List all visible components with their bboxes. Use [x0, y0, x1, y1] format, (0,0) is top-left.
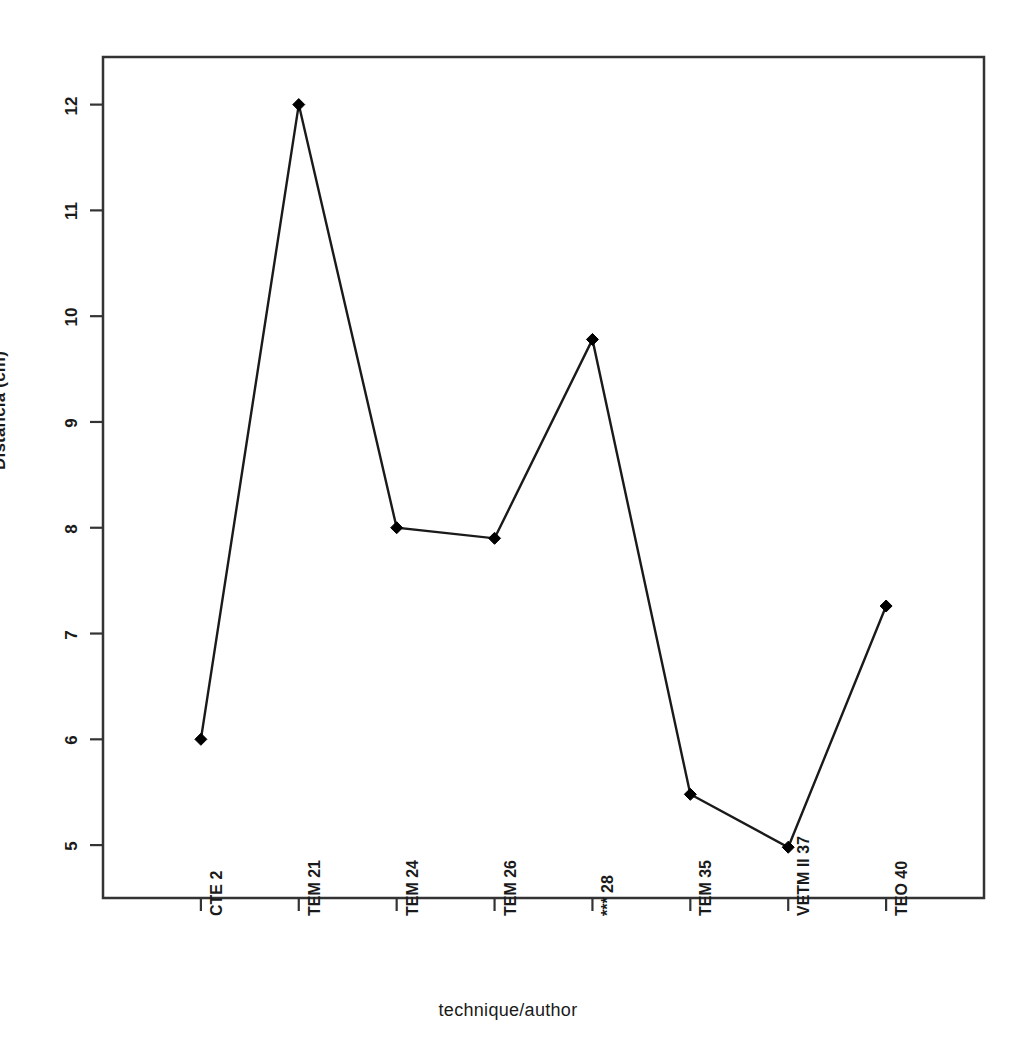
- plot-frame: [103, 57, 984, 898]
- x-tick-label: TEM 26: [502, 860, 520, 916]
- y-tick-label: 12: [62, 91, 82, 121]
- y-axis-ticks: [90, 105, 103, 846]
- y-tick-label: 9: [62, 408, 82, 438]
- x-tick-label: TEM 21: [306, 860, 324, 916]
- x-tick-label: CTE 2: [208, 871, 226, 916]
- y-tick-label: 7: [62, 620, 82, 650]
- x-tick-label: VETM II 37: [795, 836, 813, 916]
- y-tick-label: 11: [62, 196, 82, 226]
- x-tick-label: *** 28: [599, 875, 617, 916]
- y-tick-label: 10: [62, 302, 82, 332]
- y-tick-label: 8: [62, 514, 82, 544]
- y-tick-label: 5: [62, 831, 82, 861]
- x-axis-ticks: [201, 898, 886, 911]
- chart-figure: 56789101112 CTE 2TEM 21TEM 24TEM 26*** 2…: [0, 0, 1016, 1061]
- x-tick-label: TEO 40: [893, 861, 911, 916]
- y-tick-label: 6: [62, 725, 82, 755]
- x-tick-label: TEM 35: [697, 860, 715, 916]
- x-axis-title: technique/author: [0, 1000, 1016, 1021]
- x-tick-label: TEM 24: [404, 860, 422, 916]
